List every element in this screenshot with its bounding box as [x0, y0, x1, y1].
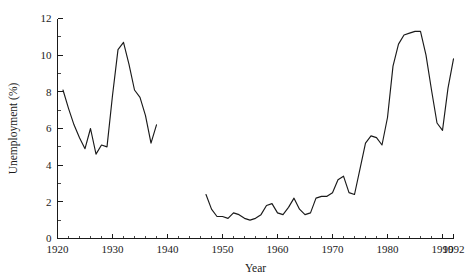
- x-tick-label: 1920: [47, 243, 70, 255]
- axis-ticks-layer: [58, 19, 454, 239]
- x-tick-label: 1992: [443, 243, 465, 255]
- chart-plot-area: 0246810121920193019401950196019701980199…: [0, 0, 473, 278]
- y-tick-label: 12: [41, 12, 52, 24]
- x-axis-title: Year: [245, 262, 266, 274]
- y-axis-title: Unemployment (%): [7, 83, 20, 175]
- x-tick-label: 1940: [157, 243, 180, 255]
- unemployment-line-chart: 0246810121920193019401950196019701980199…: [0, 0, 473, 278]
- y-tick-label: 4: [46, 159, 52, 171]
- data-line-series: [63, 42, 157, 154]
- x-tick-label: 1950: [212, 243, 235, 255]
- y-tick-label: 2: [46, 196, 52, 208]
- x-tick-label: 1980: [377, 243, 400, 255]
- y-tick-label: 10: [41, 49, 53, 61]
- x-tick-label: 1960: [267, 243, 290, 255]
- tick-labels-layer: 0246810121920193019401950196019701980199…: [41, 12, 465, 254]
- x-tick-label: 1970: [322, 243, 345, 255]
- data-line-series: [206, 31, 454, 220]
- y-tick-label: 6: [46, 122, 52, 134]
- data-series-layer: [63, 31, 454, 220]
- y-tick-label: 8: [46, 86, 52, 98]
- x-tick-label: 1930: [102, 243, 125, 255]
